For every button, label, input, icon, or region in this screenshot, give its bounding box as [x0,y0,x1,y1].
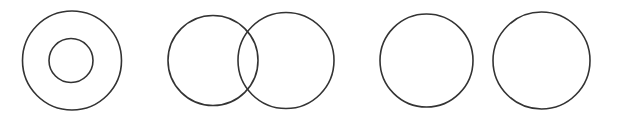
inner-circle [49,39,93,83]
standalone-circle-b [493,12,590,109]
group-disjoint-circle-left [380,14,473,107]
group-disjoint-circle-right [493,12,590,109]
standalone-circle-a [380,14,473,107]
group-concentric-circles [23,11,122,110]
group-intersecting-circles [168,13,334,109]
left-circle [168,16,258,106]
outer-circle [23,11,122,110]
right-circle [238,13,334,109]
circle-diagram-svg [0,0,617,122]
circle-diagram-canvas [0,0,617,122]
